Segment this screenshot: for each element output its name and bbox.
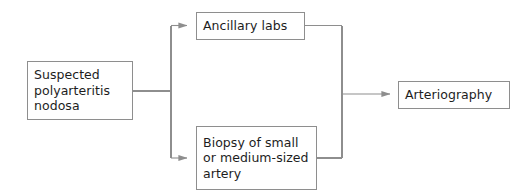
node-label: Arteriography: [399, 87, 498, 103]
node-arteriography: Arteriography: [398, 81, 510, 109]
node-label: Ancillary labs: [197, 18, 293, 34]
node-ancillary-labs: Ancillary labs: [196, 12, 305, 40]
node-label: Suspected polyarteritis nodosa: [28, 67, 116, 114]
node-label: Biopsy of small or medium-sized artery: [197, 135, 315, 182]
node-biopsy-of-small-or-medium-sized-artery: Biopsy of small or medium-sized artery: [196, 126, 317, 190]
node-suspected-polyarteritis-nodosa: Suspected polyarteritis nodosa: [27, 61, 133, 120]
flowchart-diagram: Suspected polyarteritis nodosa Ancillary…: [0, 0, 520, 195]
